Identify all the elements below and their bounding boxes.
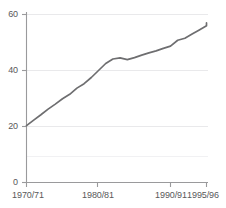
chart-plot-area (0, 0, 226, 208)
y-axis-ticks (22, 15, 26, 183)
chart-container: 60 40 20 0 1970/71 1980/81 1990/91 1995/… (0, 0, 226, 208)
y-tick-label-20: 20 (0, 121, 18, 131)
y-tick-label-40: 40 (0, 65, 18, 75)
y-tick-label-0: 0 (0, 177, 18, 187)
gridlines (26, 15, 208, 157)
y-tick-label-60: 60 (0, 9, 18, 19)
x-tick-label-1970-71: 1970/71 (0, 190, 56, 200)
x-tick-label-1980-81: 1980/81 (70, 190, 126, 200)
data-line-series-1 (27, 23, 207, 126)
x-tick-label-1995-96: 1995/96 (180, 190, 226, 200)
